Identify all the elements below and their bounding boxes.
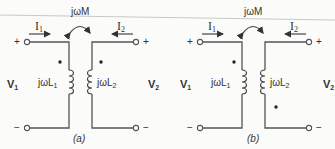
terminal-icon: [24, 39, 29, 44]
secondary-top-wire: [265, 42, 306, 70]
minus-sign: −: [187, 122, 193, 133]
polarity-dot-icon: [232, 60, 235, 63]
terminal-icon: [24, 125, 29, 130]
terminal-icon: [197, 39, 202, 44]
inductor1-label: jωL1: [37, 77, 58, 89]
minus-sign: −: [316, 122, 322, 133]
scan-line: [0, 15, 335, 20]
current1-label: I1: [208, 19, 216, 34]
mutual-coupling-arrow-icon: [243, 27, 263, 34]
current1-label: I1: [35, 19, 43, 34]
minus-sign: −: [143, 122, 149, 133]
terminal-icon: [133, 125, 138, 130]
terminal-icon: [306, 125, 311, 130]
primary-top-wire: [30, 42, 69, 70]
mutual-coupling-arrow-icon: [70, 27, 90, 34]
plus-sign: +: [187, 36, 193, 47]
primary-bottom-wire: [203, 94, 242, 128]
primary-top-wire: [203, 42, 242, 70]
plus-sign: +: [143, 36, 149, 47]
current2-label: I2: [290, 19, 298, 34]
inductor1-label: jωL1: [210, 77, 231, 89]
current2-label: I2: [117, 19, 125, 34]
plus-sign: +: [14, 36, 20, 47]
terminal-icon: [306, 39, 311, 44]
voltage1-label: V1: [180, 78, 191, 91]
secondary-coil-icon: [88, 70, 93, 94]
polarity-dot-icon: [274, 105, 277, 108]
voltage2-label: V2: [148, 78, 159, 91]
primary-coil-icon: [69, 70, 74, 94]
mutual-inductance-figure: jωM I1 I2 + + − − V1 V2 jωL1 jωL2 (a) jω…: [0, 0, 335, 149]
polarity-dot-icon: [58, 60, 61, 63]
voltage1-label: V1: [7, 78, 18, 91]
mutual-label: jωM: [70, 6, 89, 17]
caption-a: (a): [73, 133, 85, 144]
secondary-bottom-wire: [265, 94, 306, 128]
primary-bottom-wire: [30, 94, 69, 128]
voltage2-label: V2: [323, 78, 334, 91]
caption-b: (b): [247, 133, 259, 144]
inductor2-label: jωL2: [96, 77, 117, 89]
inductor2-label: jωL2: [269, 77, 290, 89]
secondary-top-wire: [92, 42, 133, 70]
minus-sign: −: [14, 122, 20, 133]
secondary-coil-icon: [261, 70, 266, 94]
primary-coil-icon: [242, 70, 247, 94]
secondary-bottom-wire: [92, 94, 133, 128]
polarity-dot-icon: [99, 60, 102, 63]
terminal-icon: [133, 39, 138, 44]
circuit-b: jωM I1 I2 + + − − V1 V2 jωL1 jωL2 (b): [180, 6, 334, 144]
terminal-icon: [197, 125, 202, 130]
plus-sign: +: [316, 36, 322, 47]
mutual-label: jωM: [243, 6, 262, 17]
circuit-a: jωM I1 I2 + + − − V1 V2 jωL1 jωL2 (a): [7, 6, 159, 144]
